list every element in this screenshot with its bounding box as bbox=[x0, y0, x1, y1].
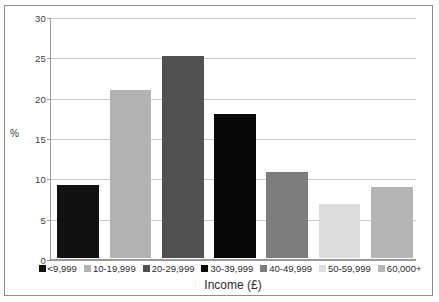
y-tick-label-10: 10 bbox=[4, 174, 46, 185]
chart-screenshot: % 051015202530 <9,99910-19,99920-29,9993… bbox=[0, 0, 439, 302]
legend-item-10-19,999: 10-19,999 bbox=[84, 264, 136, 274]
legend-swatch-icon bbox=[260, 265, 267, 272]
y-tick-label-25: 25 bbox=[4, 53, 46, 64]
chart-legend: <9,99910-19,99920-29,99930-39,99940-49,9… bbox=[44, 262, 416, 275]
legend-swatch-icon bbox=[84, 265, 91, 272]
legend-item-label: 30-39,999 bbox=[210, 264, 253, 274]
bar-50-59,999 bbox=[319, 204, 361, 258]
bars-group bbox=[52, 18, 416, 258]
y-tick-label-20: 20 bbox=[4, 93, 46, 104]
y-tick-mark-30 bbox=[47, 18, 51, 19]
plot-area bbox=[50, 18, 416, 260]
y-tick-mark-15 bbox=[47, 139, 51, 140]
legend-item-label: 40-49,999 bbox=[269, 264, 312, 274]
y-tick-label-15: 15 bbox=[4, 134, 46, 145]
legend-item-label: 50-59,999 bbox=[328, 264, 371, 274]
legend-swatch-icon bbox=[378, 265, 385, 272]
legend-item-label: 20-29,999 bbox=[152, 264, 195, 274]
legend-item-30-39,999: 30-39,999 bbox=[201, 264, 253, 274]
legend-item-50-59,999: 50-59,999 bbox=[319, 264, 371, 274]
legend-swatch-icon bbox=[201, 265, 208, 272]
bar-<9,999 bbox=[57, 185, 99, 258]
bar-40-49,999 bbox=[266, 172, 308, 258]
bar-60,000+ bbox=[371, 187, 413, 258]
legend-item-20-29,999: 20-29,999 bbox=[143, 264, 195, 274]
legend-item-label: 60,000+ bbox=[387, 264, 422, 274]
legend-item-label: <9,999 bbox=[48, 264, 77, 274]
bar-10-19,999 bbox=[110, 90, 152, 258]
bar-chart-figure: % 051015202530 <9,99910-19,99920-29,9993… bbox=[0, 0, 439, 302]
legend-item-<9,999: <9,999 bbox=[39, 264, 77, 274]
y-tick-label-30: 30 bbox=[4, 13, 46, 24]
x-axis-title: Income (£) bbox=[50, 278, 416, 292]
legend-swatch-icon bbox=[143, 265, 150, 272]
legend-item-60,000+: 60,000+ bbox=[378, 264, 422, 274]
legend-swatch-icon bbox=[39, 265, 46, 272]
legend-item-40-49,999: 40-49,999 bbox=[260, 264, 312, 274]
bar-20-29,999 bbox=[162, 56, 204, 258]
y-tick-mark-25 bbox=[47, 58, 51, 59]
y-tick-mark-0 bbox=[47, 260, 51, 261]
legend-item-label: 10-19,999 bbox=[93, 264, 136, 274]
bar-30-39,999 bbox=[214, 114, 256, 258]
y-tick-mark-5 bbox=[47, 220, 51, 221]
legend-swatch-icon bbox=[319, 265, 326, 272]
y-tick-mark-10 bbox=[47, 179, 51, 180]
y-axis-tick-labels: 051015202530 bbox=[0, 18, 46, 260]
y-tick-label-5: 5 bbox=[4, 214, 46, 225]
y-tick-mark-20 bbox=[47, 99, 51, 100]
gridline-0 bbox=[51, 260, 416, 261]
